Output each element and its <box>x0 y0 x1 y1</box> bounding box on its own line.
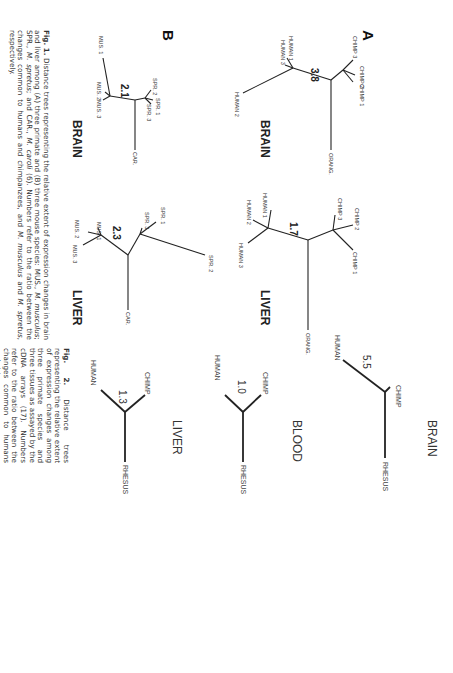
figure-1-caption: Fig. 1. Distance trees representing the … <box>7 30 50 340</box>
caption-species: M. musculus <box>33 292 42 337</box>
leaf-label: RHESUS <box>240 465 247 495</box>
leaf-label: MUS. 1 <box>98 36 104 54</box>
tissue-label: BLOOD <box>290 420 304 462</box>
leaf-label: HUMAN 3 <box>238 243 244 268</box>
ratio-value: 2.3 <box>111 226 122 240</box>
figure-2-caption: Fig. 2. Distance trees representing the … <box>0 348 70 463</box>
leaf-label: HUMAN <box>334 335 341 361</box>
leaf-label: ORANG. <box>305 333 311 355</box>
leaf-label: HUMAN 3 <box>280 40 286 65</box>
caption-species: M. musculus <box>16 231 25 277</box>
figure-2: BRAIN CHIMP HUMAN RHESUS 5.5 BLOOD CHIMP… <box>90 335 439 495</box>
caption-label: Fig. 2. <box>62 348 71 385</box>
leaf-label: CHIMP 1 <box>359 84 365 106</box>
leaf-label: CAR. <box>125 312 131 326</box>
leaf-label: CHIMP <box>262 372 269 395</box>
figure-1: A B CHIMP 3 CHIMP 2 CHIMP 1 HUMAN 1 HUMA… <box>0 0 453 673</box>
leaf-label: SPR. 3 <box>146 104 152 121</box>
leaf-label: SPR. 2 <box>208 255 214 272</box>
leaf-label: SPR. 3 <box>144 212 150 229</box>
ratio-value: 1.0 <box>236 380 247 394</box>
leaf-label: CHIMP 1 <box>352 252 358 274</box>
leaf-label: HUMAN <box>90 360 97 386</box>
leaf-label: HUMAN 1 <box>288 36 294 61</box>
ratio-value: 2.1 <box>119 84 130 98</box>
tissue-label: BRAIN <box>425 420 439 457</box>
caption-text: Distance trees representing the relative… <box>0 348 71 463</box>
ratio-value: 5.5 <box>361 355 372 369</box>
leaf-label: HUMAN 1 <box>262 193 268 218</box>
panel-label-b: B <box>160 30 177 41</box>
leaf-label: SPR. 2 <box>152 78 158 95</box>
tree-fig2-blood <box>225 395 261 462</box>
ratio-value: 3.8 <box>309 68 320 82</box>
leaf-label: MUS. 2 <box>74 220 80 238</box>
leaf-label: CHIMP <box>395 385 402 408</box>
caption-species: M. spretus <box>16 299 25 338</box>
ratio-value: 1.3 <box>117 390 128 404</box>
leaf-label: MUS. 3 <box>72 245 78 263</box>
panel-label-a: A <box>360 30 377 41</box>
leaf-label: HUMAN <box>214 355 221 381</box>
caption-species: M. spretus <box>25 52 34 91</box>
tissue-label: LIVER <box>258 290 272 326</box>
tissue-label: BRAIN <box>258 120 272 158</box>
leaf-label: ORANG. <box>328 153 334 175</box>
ratio-value: 1.7 <box>288 222 299 236</box>
leaf-label: RHESUS <box>382 462 389 492</box>
leaf-label: SPR. 1 <box>155 98 161 115</box>
leaf-label: HUMAN 2 <box>246 200 252 225</box>
rotated-page-frame: A B CHIMP 3 CHIMP 2 CHIMP 1 HUMAN 1 HUMA… <box>0 0 453 673</box>
caption-text: ; and CAR., <box>25 91 34 137</box>
caption-text: and <box>16 277 25 298</box>
leaf-label: HUMAN 2 <box>234 92 240 117</box>
leaf-label: RHESUS <box>122 465 129 495</box>
leaf-label: MUS. 1 <box>96 222 102 240</box>
leaf-label: CAR. <box>132 152 138 166</box>
caption-label: Fig. 1. <box>42 30 51 56</box>
leaf-label: MUS. 3 <box>96 100 102 118</box>
paper-page: A B CHIMP 3 CHIMP 2 CHIMP 1 HUMAN 1 HUMA… <box>0 0 453 673</box>
leaf-label: CHIMP 3 <box>337 198 343 220</box>
leaf-label: CHIMP 3 <box>352 36 358 58</box>
leaf-label: CHIMP 2 <box>354 208 360 230</box>
tissue-label: LIVER <box>70 290 84 326</box>
tree-fig2-brain <box>343 360 390 458</box>
leaf-label: CHIMP <box>144 372 151 395</box>
tissue-label: BRAIN <box>70 120 84 158</box>
caption-species: M. caroli <box>25 137 34 169</box>
leaf-label: MUS. 2 <box>96 82 102 100</box>
leaf-label: SPR. 1 <box>160 207 166 224</box>
tissue-label: LIVER <box>170 420 184 455</box>
